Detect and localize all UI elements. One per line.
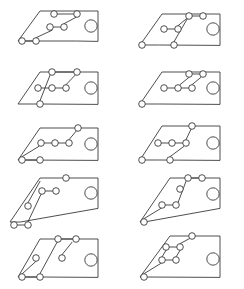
- large-node-circle: [207, 82, 219, 94]
- graph-edge: [40, 242, 57, 273]
- node-circle: [75, 125, 82, 132]
- node-circle: [51, 11, 58, 18]
- node-circle: [37, 274, 44, 281]
- node-circle: [189, 123, 196, 130]
- node-circle: [73, 236, 80, 243]
- node-circle: [141, 274, 148, 281]
- large-node-circle: [85, 254, 97, 266]
- large-node-circle: [207, 253, 219, 265]
- node-circle: [161, 85, 168, 92]
- node-circle: [33, 255, 40, 262]
- node-circle: [33, 38, 40, 45]
- node-circle: [155, 140, 162, 147]
- graph-drawing: [0, 172, 122, 230]
- node-circle: [53, 188, 60, 195]
- graph-edge: [22, 261, 36, 274]
- graph-edge: [69, 131, 76, 139]
- node-circle: [169, 140, 176, 147]
- node-circle: [183, 140, 190, 147]
- node-circle: [35, 85, 42, 92]
- node-circle: [37, 157, 44, 164]
- graph-edge: [180, 238, 190, 243]
- node-circle: [163, 244, 170, 251]
- figure-sheet: [0, 0, 244, 289]
- node-circle: [185, 175, 192, 182]
- node-circle: [47, 24, 54, 31]
- node-circle: [200, 13, 207, 20]
- node-circle: [55, 236, 62, 243]
- node-circle: [74, 11, 81, 18]
- graph-edge: [144, 208, 161, 218]
- node-circle: [189, 85, 196, 92]
- graph-drawing: [0, 58, 122, 116]
- node-circle: [171, 42, 178, 49]
- large-node-circle: [85, 138, 97, 150]
- large-node-circle: [85, 82, 97, 94]
- node-circle: [59, 255, 66, 262]
- outline-polygon: [10, 178, 98, 222]
- large-node-circle: [207, 23, 219, 35]
- graph-edge: [176, 250, 180, 257]
- graph-drawing: [122, 116, 244, 174]
- graph-panel: [122, 58, 244, 116]
- graph-panel: [0, 172, 122, 230]
- node-circle: [49, 85, 56, 92]
- node-circle: [173, 202, 180, 209]
- node-circle: [63, 85, 70, 92]
- node-circle: [175, 26, 182, 33]
- large-node-circle: [207, 188, 219, 200]
- node-circle: [177, 186, 184, 193]
- graph-panel: [122, 0, 244, 58]
- graph-panel: [122, 230, 244, 288]
- node-circle: [63, 175, 70, 182]
- node-circle: [189, 233, 196, 240]
- graph-edge: [66, 75, 75, 84]
- graph-panel: [122, 116, 244, 174]
- node-circle: [139, 101, 146, 108]
- graph-edge: [192, 77, 201, 84]
- large-node-circle: [207, 137, 219, 149]
- node-circle: [39, 188, 46, 195]
- graph-drawing: [122, 172, 244, 230]
- graph-drawing: [122, 0, 244, 58]
- node-circle: [141, 219, 148, 226]
- graph-edge: [22, 146, 39, 156]
- graph-panel: [0, 0, 122, 58]
- graph-panel: [0, 230, 122, 288]
- node-circle: [177, 244, 184, 251]
- node-circle: [52, 140, 59, 147]
- graph-edge: [170, 146, 184, 156]
- graph-edge: [186, 129, 191, 139]
- node-circle: [61, 24, 68, 31]
- node-circle: [25, 203, 32, 210]
- graph-edge: [162, 250, 166, 257]
- node-circle: [167, 157, 174, 164]
- node-circle: [74, 69, 81, 76]
- node-circle: [37, 101, 44, 108]
- node-circle: [139, 42, 146, 49]
- node-circle: [66, 140, 73, 147]
- graph-drawing: [122, 58, 244, 116]
- node-circle: [159, 257, 166, 264]
- node-circle: [161, 26, 168, 33]
- graph-panel: [0, 116, 122, 174]
- node-circle: [200, 71, 207, 78]
- large-node-circle: [85, 20, 97, 32]
- node-circle: [25, 222, 32, 229]
- graph-drawing: [0, 0, 122, 58]
- graph-drawing: [0, 230, 122, 288]
- node-circle: [11, 222, 18, 229]
- outline-polygon: [140, 178, 220, 222]
- node-circle: [175, 85, 182, 92]
- graph-drawing: [0, 116, 122, 174]
- node-circle: [159, 202, 166, 209]
- graph-panel: [122, 172, 244, 230]
- node-circle: [19, 157, 26, 164]
- graph-edge: [180, 77, 189, 84]
- node-circle: [19, 38, 26, 45]
- node-circle: [186, 71, 193, 78]
- node-circle: [186, 13, 193, 20]
- large-node-circle: [85, 187, 97, 199]
- graph-panel: [0, 58, 122, 116]
- node-circle: [199, 175, 206, 182]
